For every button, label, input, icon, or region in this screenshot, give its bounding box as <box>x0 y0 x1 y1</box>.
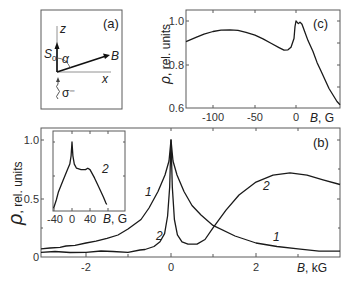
panel-c-label: (c) <box>313 16 328 31</box>
angle-label: α <box>62 52 70 66</box>
x-tick-label: 0 <box>168 261 174 273</box>
x-tick-label: 2 <box>253 261 259 273</box>
panel-b-label: (b) <box>313 135 329 150</box>
inset-x-tick-label: -40 <box>47 213 63 225</box>
x-tick-label: -2 <box>81 261 91 273</box>
x-tick-label: 0 <box>293 111 299 123</box>
inset-curve-label: 2 <box>101 162 109 176</box>
inset-chart: -40 0 40 B, G 2 <box>47 131 127 226</box>
light-arrow-head-icon <box>56 77 60 82</box>
light-wave <box>57 80 60 99</box>
panel-a-label: (a) <box>103 16 119 31</box>
x-axis-label: B, kG <box>297 261 327 275</box>
y-tick-label: 1.0 <box>24 134 39 146</box>
y-tick-label: 0.5 <box>24 193 39 205</box>
spin-arrow-head-icon <box>55 42 60 49</box>
inset-x-axis-label: B, G <box>103 212 127 226</box>
y-axis-label: ρ, rel. units <box>4 162 26 227</box>
panel-a-diagram: (a) z x S0 B α σ⁻ <box>41 10 122 109</box>
curve-2-label: 2 <box>155 229 163 243</box>
inset-x-tick-label: 0 <box>69 213 75 225</box>
spin-label: S0 <box>44 47 57 63</box>
z-axis-label: z <box>59 22 66 36</box>
curve-1-label: 1 <box>145 185 152 199</box>
figure: (a) z x S0 B α σ⁻ <box>0 0 357 286</box>
x-tick-label: -50 <box>247 111 263 123</box>
y-tick-label: 0 <box>33 251 39 263</box>
inset-x-tick-label: 40 <box>84 213 96 225</box>
light-label: σ⁻ <box>62 86 75 100</box>
curve-2-label: 2 <box>262 179 270 193</box>
panel-b-chart: -2 0 2 1.0 0.5 0 B, kG ρ, rel. units (b)… <box>4 128 340 275</box>
panel-c-chart: -100 -50 0 1.0 0.8 0.6 B, G ρ, rel. unit… <box>157 10 340 125</box>
inset-frame <box>53 131 125 211</box>
curve-1-label: 1 <box>273 230 280 244</box>
field-arrow-head-icon <box>103 54 110 60</box>
y-axis-label: ρ, rel. units <box>157 24 173 85</box>
field-label: B <box>111 49 119 63</box>
x-axis-label: x <box>101 72 109 86</box>
panel-c-curve <box>186 21 340 105</box>
y-tick-label: 0.6 <box>169 102 184 114</box>
x-axis-label: B, G <box>310 111 334 125</box>
x-tick-label: -100 <box>202 111 224 123</box>
